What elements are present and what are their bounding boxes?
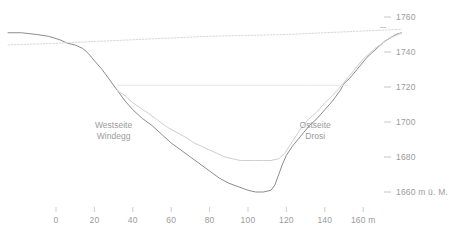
slope-annotation-1: OstseiteDrosi [285,120,345,143]
series-line-0 [8,33,402,192]
series-line-1 [117,33,401,161]
x-axis-tick-label: 140 [317,216,332,225]
slope-annotation-line2: Drosi [285,131,345,142]
y-axis-tick-label: 1760 [396,13,416,22]
series-group [8,29,402,192]
x-axis-tick-label: 60 [166,216,176,225]
x-axis-tick-label: 100 [241,216,256,225]
y-axis-tick-label: 1680 [396,153,416,162]
x-axis-tick-label: 120 [279,216,294,225]
x-axis-tick-label: 40 [128,216,138,225]
slope-annotation-line2: Windegg [84,131,144,142]
slope-annotation-0: WestseiteWindegg [84,120,144,143]
cross-section-chart: 1660 m ü. M.16801700172017401760 0204060… [0,0,468,236]
x-axis-tick-label: 20 [89,216,99,225]
slope-annotation-line1: Ostseite [285,120,345,131]
y-axis-tick-label: 1700 [396,118,416,127]
slope-annotation-line1: Westseite [84,120,144,131]
x-axis-tick-label: 0 [54,216,59,225]
y-axis-tick-label: 1740 [396,48,416,57]
series-line-3 [8,29,402,45]
y-axis-tick-label: 1720 [396,83,416,92]
x-axis-tick-marks [56,207,363,212]
x-axis-tick-label: 80 [205,216,215,225]
y-axis-tick-label: 1660 m ü. M. [396,188,448,197]
x-axis-tick-label: 160 m [351,216,376,225]
